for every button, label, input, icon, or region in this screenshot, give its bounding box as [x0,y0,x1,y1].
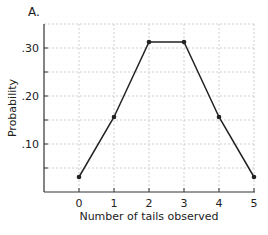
tick-labels: .10.20.30012345 [22,42,258,210]
x-axis-title: Number of tails observed [79,210,218,223]
data-series [77,40,257,180]
y-tick-label: .30 [22,42,40,55]
x-tick-label: 4 [216,197,223,210]
data-point-marker [252,175,257,180]
data-point-marker [147,40,152,45]
y-tick-label: .20 [22,90,40,103]
series-line [79,42,254,177]
x-tick-label: 1 [111,197,118,210]
x-tick-label: 0 [76,197,83,210]
data-point-marker [77,175,82,180]
y-axis-title: Probability [6,78,19,137]
x-tick-label: 5 [251,197,258,210]
data-point-marker [217,115,222,120]
data-point-marker [112,115,117,120]
x-tick-label: 2 [146,197,153,210]
x-tick-label: 3 [181,197,188,210]
y-tick-label: .10 [22,138,40,151]
grid-lines [44,24,255,192]
line-chart: .10.20.30012345 Number of tails observed… [0,0,268,235]
data-point-marker [182,40,187,45]
